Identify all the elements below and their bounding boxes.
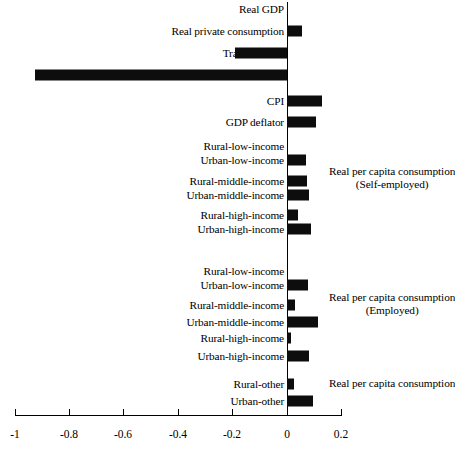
chart-row: Urban-high-income [0, 349, 443, 362]
annotation-self-employed-line2: (Self-employed) [329, 178, 455, 191]
chart-row: Rural-low-income [0, 139, 443, 152]
bar [287, 95, 322, 106]
annotation-self-employed-line1: Real per capita consumption [329, 165, 455, 177]
chart-row: Real GDP [0, 2, 443, 15]
x-axis-tick [178, 409, 179, 416]
chart-row: Urban-other [0, 394, 443, 407]
x-axis-tick [15, 409, 16, 416]
row-label: CPI [267, 95, 287, 107]
row-label: Urban-middle-income [186, 316, 287, 328]
chart-rows: Real GDPReal private consumptionTrade ba… [0, 0, 443, 410]
annotation-employed-line2: (Employed) [329, 304, 455, 317]
annotation-per-capita: Real per capita consumption [329, 377, 455, 390]
bar [287, 25, 302, 36]
bar [287, 332, 291, 343]
chart-row: Trade balance [0, 46, 443, 59]
x-axis-tick [232, 409, 233, 416]
bar [287, 279, 308, 290]
bar [287, 395, 313, 406]
x-axis-tick [341, 409, 342, 416]
bar [287, 154, 306, 165]
bar [287, 299, 295, 310]
row-label: GDP deflator [226, 116, 287, 128]
chart-row: Urban-low-income [0, 278, 443, 291]
chart-row: Rural-low-income [0, 264, 443, 277]
x-axis-tick-label: -0.8 [60, 428, 78, 440]
x-axis-tick-label: -0.2 [223, 428, 241, 440]
chart-row: Real private consumption [0, 24, 443, 37]
bar [287, 175, 307, 186]
bar [287, 223, 311, 234]
row-label: Urban-other [230, 395, 287, 407]
row-label: Rural-middle-income [190, 299, 287, 311]
bar [35, 69, 287, 80]
x-axis-tick-label: -0.6 [114, 428, 132, 440]
bar [287, 378, 294, 389]
row-label: Urban-high-income [197, 223, 287, 235]
row-label: Rural-middle-income [190, 175, 287, 187]
annotation-employed-line1: Real per capita consumption [329, 291, 455, 303]
row-label: Real private consumption [172, 25, 287, 37]
bar [287, 209, 298, 220]
row-label: Real GDP [239, 3, 287, 15]
row-label: Urban-low-income [200, 279, 287, 291]
chart-row: GDP deflator [0, 115, 443, 128]
x-axis-tick [69, 409, 70, 416]
row-label: Rural-low-income [204, 140, 287, 152]
x-axis-tick-label: 0.2 [334, 428, 348, 440]
chart-row: Rural-high-income [0, 331, 443, 344]
row-label: Rural-high-income [201, 209, 287, 221]
x-axis-tick-label: 0 [284, 428, 290, 440]
chart-row: CPI [0, 94, 443, 107]
x-axis-tick-label: -0.4 [169, 428, 187, 440]
x-axis-tick-label: -1 [10, 428, 20, 440]
x-axis-tick [287, 409, 288, 416]
row-label: Urban-middle-income [186, 189, 287, 201]
row-label: Rural-low-income [204, 265, 287, 277]
annotation-per-capita-line1: Real per capita consumption [329, 377, 455, 389]
x-axis-tick [123, 409, 124, 416]
bar [287, 3, 288, 14]
annotation-self-employed: Real per capita consumption (Self-employ… [329, 165, 455, 191]
chart-row: Rural-high-income [0, 208, 443, 221]
annotation-employed: Real per capita consumption (Employed) [329, 291, 455, 317]
row-label: Rural-other [234, 378, 287, 390]
bar [287, 316, 318, 327]
bar [235, 47, 287, 58]
chart-row: Urban-high-income [0, 222, 443, 235]
bar [287, 189, 309, 200]
row-label: Urban-high-income [197, 350, 287, 362]
bar [287, 350, 309, 361]
row-label: Urban-low-income [200, 154, 287, 166]
bar [287, 116, 316, 127]
row-label: Rural-high-income [201, 332, 287, 344]
chart-row: Indirect tax revenues [0, 68, 443, 81]
